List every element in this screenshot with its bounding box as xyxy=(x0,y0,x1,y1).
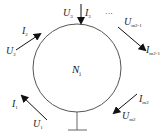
label-U1: U1 xyxy=(33,118,43,130)
node-label: Ni xyxy=(71,63,81,77)
label-U2: U2 xyxy=(6,45,16,57)
arrow-port-1 xyxy=(22,96,47,120)
label-I3: I3 xyxy=(84,7,91,19)
label-I2: I2 xyxy=(21,25,28,37)
label-U3: U3 xyxy=(63,7,73,19)
label-I1: I1 xyxy=(11,98,18,110)
label-Im2: Im2 xyxy=(138,93,149,105)
arrow-port-2 xyxy=(16,34,40,50)
label-Um2: Um2 xyxy=(122,110,136,122)
network-diagram: Ni U3 I3 ··· I2 U2 I1 U1 Um2-1 Im2-1 Im2… xyxy=(0,0,168,140)
label-Um2-1: Um2-1 xyxy=(124,16,142,28)
ellipsis: ··· xyxy=(105,9,113,18)
label-Im2-1: Im2-1 xyxy=(145,44,160,56)
arrow-port-m2-1 xyxy=(118,27,145,50)
